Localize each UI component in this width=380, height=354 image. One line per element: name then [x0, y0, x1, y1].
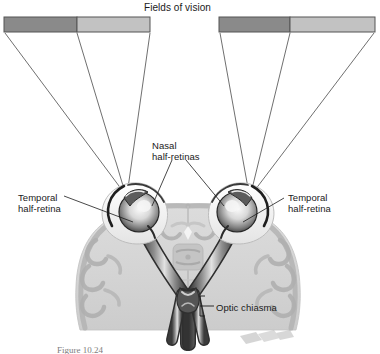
- label-temporal-half-retina-left: Temporal half-retina: [18, 192, 61, 214]
- right-field-light-segment: [290, 17, 375, 32]
- caption-artifacts: [240, 330, 294, 344]
- right-field-dark-segment: [219, 17, 290, 32]
- vision-pathway-figure: Fields of vision Nasal half-retinas Temp…: [0, 0, 380, 354]
- leader-nasal-right: [186, 160, 224, 206]
- page-title: Fields of vision: [144, 2, 211, 13]
- right-eyeball: [208, 183, 273, 244]
- label-nasal-half-retinas: Nasal half-retinas: [152, 140, 200, 162]
- diencephalon: [173, 244, 203, 270]
- label-optic-chiasma: Optic chiasma: [216, 302, 277, 313]
- figure-illustration: [0, 0, 380, 354]
- figure-caption: Figure 10.24: [57, 345, 103, 354]
- left-field-of-vision: [4, 17, 150, 32]
- optic-chiasma: [177, 288, 199, 313]
- left-sight-lines: [5, 33, 150, 190]
- right-sight-lines: [220, 33, 374, 190]
- left-field-light-segment: [77, 17, 150, 32]
- right-field-of-vision: [219, 17, 375, 32]
- left-field-dark-segment: [4, 17, 77, 32]
- label-temporal-half-retina-right: Temporal half-retina: [288, 192, 331, 214]
